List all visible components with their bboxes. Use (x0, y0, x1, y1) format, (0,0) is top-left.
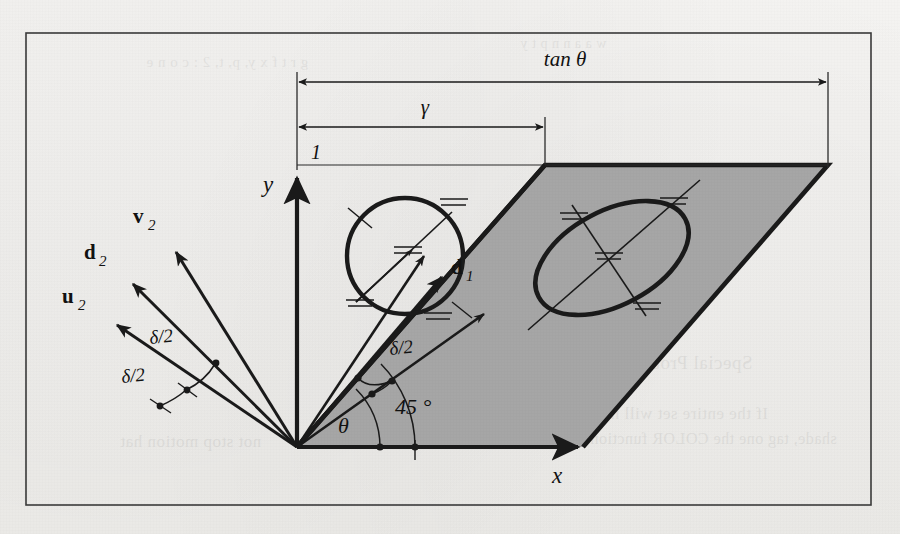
label-vector-u2-sub: 2 (78, 297, 86, 313)
label-vector-d2-base: d (84, 240, 96, 264)
label-gamma: γ (421, 95, 430, 119)
label-vector-d2: d 2 (84, 240, 107, 269)
label-vector-d2-sub: 2 (99, 253, 107, 269)
figure-canvas: tan θ γ 1 x y v 2 d 2 u 2 d 1 δ/2 δ/2 δ/… (0, 0, 900, 534)
angle-vertex-dot-theta (376, 443, 383, 450)
angle-arc-left-lower (160, 390, 186, 406)
label-delta-half-center: δ/2 (388, 336, 414, 359)
label-vector-v2-sub: 2 (148, 217, 156, 233)
label-theta: θ (338, 413, 349, 438)
label-vector-d1-base: d (451, 255, 463, 279)
label-45-degrees: 45 ° (395, 394, 432, 419)
circle-radius-arrow (356, 250, 412, 302)
label-vector-u2: u 2 (62, 284, 86, 313)
tick-mark-u2 (150, 399, 171, 413)
label-x-axis: x (551, 463, 563, 488)
label-delta-half-left-upper: δ/2 (148, 325, 174, 348)
vector-v2 (176, 252, 297, 447)
angle-arc-left-upper (186, 364, 215, 390)
angle-dot-v2 (213, 360, 220, 367)
label-vector-d1-sub: 1 (466, 268, 474, 284)
label-one: 1 (311, 141, 321, 163)
vector-u2 (117, 325, 297, 447)
label-y-axis: y (261, 172, 274, 197)
label-delta-half-left-lower: δ/2 (120, 364, 146, 387)
label-vector-v2: v 2 (133, 204, 156, 233)
label-vector-u2-base: u (62, 284, 74, 308)
label-tan-theta: tan θ (544, 47, 586, 71)
label-vector-v2-base: v (133, 204, 144, 228)
